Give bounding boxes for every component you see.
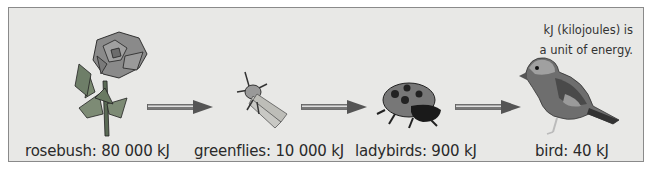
note-line: a unit of energy. <box>540 40 633 60</box>
greenfly-image <box>231 70 291 132</box>
note-line: kJ (kilojoules) is <box>540 20 633 40</box>
ladybird-image <box>375 80 445 130</box>
bird-label: bird: 40 kJ <box>535 142 609 160</box>
energy-unit-note: kJ (kilojoules) is a unit of energy. <box>540 20 633 60</box>
arrow-icon <box>147 100 213 114</box>
arrow-icon <box>301 100 367 114</box>
food-chain-panel: rosebush: 80 000 kJ greenflies: 10 000 k… <box>8 7 644 162</box>
greenflies-label: greenflies: 10 000 kJ <box>194 142 344 160</box>
ladybirds-label: ladybirds: 900 kJ <box>355 142 477 160</box>
bird-image <box>505 48 625 140</box>
rosebush-image <box>59 26 159 138</box>
rosebush-label: rosebush: 80 000 kJ <box>25 142 170 160</box>
